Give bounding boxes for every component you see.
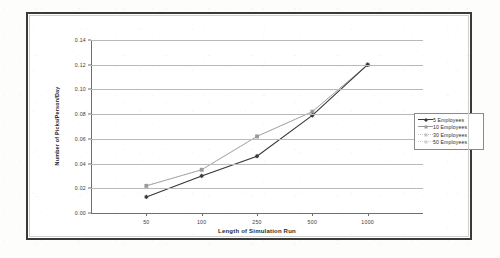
x-tick-label: 500 — [308, 219, 318, 225]
legend-label: 5 Employees — [433, 117, 464, 123]
figure-frame: 0.000.020.040.060.080.100.120.1450100250… — [26, 12, 472, 240]
legend-label: 30 Employees — [433, 132, 467, 138]
series-line — [146, 65, 367, 197]
legend-key-icon — [418, 124, 433, 131]
gridline-y — [91, 89, 423, 90]
gridline-y — [91, 164, 423, 165]
series-line — [146, 65, 367, 186]
data-point-marker — [255, 134, 259, 138]
y-tick-mark — [88, 40, 91, 41]
x-tick-label: 250 — [252, 219, 262, 225]
y-tick-label: 0.08 — [75, 111, 86, 117]
x-tick-label: 100 — [197, 219, 207, 225]
y-tick-label: 0.14 — [75, 37, 86, 43]
legend-label: 10 Employees — [433, 124, 467, 130]
x-tick-mark — [257, 213, 258, 216]
y-tick-mark — [88, 114, 91, 115]
y-tick-mark — [88, 64, 91, 65]
series-line — [146, 65, 367, 197]
x-tick-mark — [368, 213, 369, 216]
x-tick-label: 1000 — [361, 219, 374, 225]
x-tick-label: 50 — [143, 219, 149, 225]
plot-area: 0.000.020.040.060.080.100.120.1450100250… — [91, 40, 423, 213]
y-tick-label: 0.00 — [75, 210, 86, 216]
x-tick-mark — [312, 213, 313, 216]
legend-key-icon — [418, 131, 433, 138]
y-tick-mark — [88, 188, 91, 189]
legend-item: 10 Employees — [418, 124, 480, 132]
y-tick-label: 0.12 — [75, 62, 86, 68]
data-point-marker — [144, 184, 148, 188]
legend-item: 30 Employees — [418, 131, 480, 139]
chart-legend: 5 Employees10 Employees30 Employees50 Em… — [414, 113, 484, 150]
y-tick-label: 0.04 — [75, 161, 86, 167]
data-point-marker — [200, 168, 204, 172]
y-tick-label: 0.02 — [75, 185, 86, 191]
y-tick-mark — [88, 163, 91, 164]
legend-label: 50 Employees — [433, 139, 467, 145]
legend-item: 5 Employees — [418, 116, 480, 124]
legend-key-icon — [418, 116, 433, 123]
series-layer — [91, 40, 423, 213]
legend-item: 50 Employees — [418, 139, 480, 147]
gridline-y — [91, 65, 423, 66]
gridline-y — [91, 40, 423, 41]
y-tick-mark — [88, 89, 91, 90]
legend-key-icon — [418, 139, 433, 146]
scanned-figure-page: 0.000.020.040.060.080.100.120.1450100250… — [0, 0, 500, 258]
y-tick-mark — [88, 213, 91, 214]
y-tick-label: 0.06 — [75, 136, 86, 142]
y-tick-mark — [88, 138, 91, 139]
y-axis-title: Number of Picks/Person/Day — [54, 87, 60, 166]
gridline-y — [91, 188, 423, 189]
gridline-y — [91, 114, 423, 115]
x-tick-mark — [202, 213, 203, 216]
x-axis-title: Length of Simulation Run — [91, 228, 423, 234]
y-tick-label: 0.10 — [75, 86, 86, 92]
x-tick-mark — [146, 213, 147, 216]
series-line — [146, 65, 367, 186]
gridline-y — [91, 139, 423, 140]
